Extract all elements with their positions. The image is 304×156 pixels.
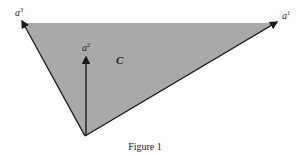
figure-caption: Figure 1	[0, 141, 290, 152]
label-a2: a2	[82, 42, 90, 53]
cone-region	[24, 23, 275, 136]
region-label: C	[116, 54, 123, 66]
label-a3: a3	[15, 7, 23, 18]
cone-diagram	[0, 0, 304, 156]
label-a1: a1	[282, 10, 290, 21]
